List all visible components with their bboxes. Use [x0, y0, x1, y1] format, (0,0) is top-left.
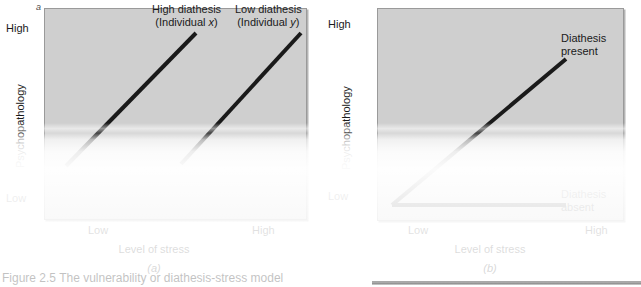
x-tick-low-b: Low: [408, 224, 428, 237]
line-diathesis-present: [392, 59, 566, 205]
y-axis-title-b: Psychopathology: [340, 86, 353, 170]
legend-diathesis-present-line2: present: [561, 45, 606, 58]
x-tick-high-b: High: [585, 224, 608, 237]
legend-high-diathesis-suffix: ): [214, 16, 218, 28]
plot-area-a: [44, 8, 307, 220]
legend-diathesis-present: Diathesis present: [561, 32, 606, 58]
x-tick-low-a: Low: [88, 224, 108, 237]
legend-low-diathesis-prefix: (Individual: [237, 16, 290, 28]
legend-high-diathesis: High diathesis (Individual x): [152, 3, 221, 29]
legend-low-diathesis: Low diathesis (Individual y): [235, 3, 302, 29]
panel-b: Diathesis present Diathesis absent Psych…: [320, 0, 641, 287]
x-axis-title-b: Level of stress: [420, 243, 560, 256]
legend-low-diathesis-line1: Low diathesis: [235, 3, 302, 16]
legend-low-diathesis-suffix: ): [296, 16, 300, 28]
y-tick-low-a: Low: [6, 192, 26, 205]
next-figure-rule: [372, 281, 641, 285]
figure-corner-letter: a: [36, 2, 41, 12]
legend-diathesis-absent-line1: Diathesis: [561, 188, 606, 201]
x-tick-high-a: High: [252, 224, 275, 237]
plot-lines-a: [45, 9, 306, 219]
y-axis-title-a: Psychopathology: [14, 84, 27, 168]
y-tick-high-a: High: [6, 22, 29, 35]
legend-high-diathesis-line2: (Individual x): [152, 16, 221, 29]
figure-caption-sliver: Figure 2.5 The vulnerability or diathesi…: [0, 272, 300, 287]
legend-high-diathesis-prefix: (Individual: [155, 16, 208, 28]
legend-diathesis-absent-line2: absent: [561, 201, 606, 214]
figure-caption-text: Figure 2.5 The vulnerability or diathesi…: [2, 272, 283, 285]
x-axis-title-a: Level of stress: [84, 243, 224, 256]
panel-letter-b: (b): [460, 262, 520, 275]
line-high-diathesis: [66, 33, 196, 166]
legend-diathesis-present-line1: Diathesis: [561, 32, 606, 45]
legend-high-diathesis-line1: High diathesis: [152, 3, 221, 16]
legend-diathesis-absent: Diathesis absent: [561, 188, 606, 214]
diathesis-stress-figure: a High diathesis (Individual x) Low diat…: [0, 0, 641, 287]
panel-a: a High diathesis (Individual x) Low diat…: [0, 0, 320, 287]
y-tick-low-b: Low: [328, 190, 348, 203]
y-tick-high-b: High: [328, 18, 351, 31]
legend-low-diathesis-line2: (Individual y): [235, 16, 302, 29]
line-low-diathesis: [181, 33, 301, 164]
